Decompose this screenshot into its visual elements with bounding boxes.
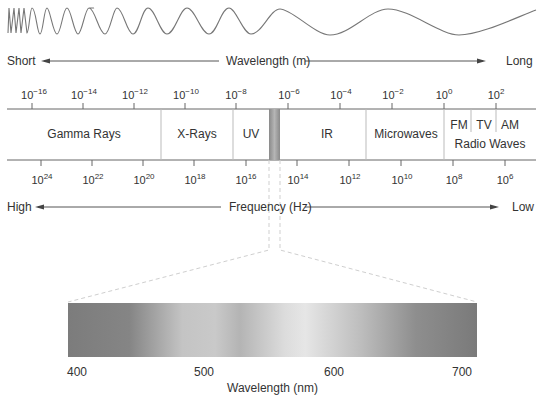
frequency-tick-label: 1022 <box>82 172 103 186</box>
wavelength-tick-label: 102 <box>488 87 505 101</box>
band-label-gamma-rays: Gamma Rays <box>47 127 120 141</box>
radio-waves-label: Radio Waves <box>455 137 526 151</box>
wavelength-axis-title: Wavelength (m) <box>226 54 310 68</box>
visible-tick-label: 500 <box>194 365 214 379</box>
frequency-tick-label: 1020 <box>133 172 154 186</box>
band-label-ir: IR <box>321 127 333 141</box>
frequency-tick-label: 1016 <box>235 172 256 186</box>
frequency-high-label: High <box>7 200 32 214</box>
frequency-tick-label: 1014 <box>287 172 308 186</box>
frequency-tick-label: 1018 <box>184 172 205 186</box>
wavelength-tick-label: 10−12 <box>122 87 148 101</box>
frequency-tick-label: 1010 <box>391 172 412 186</box>
band-label-am: AM <box>501 118 519 132</box>
visible-tick-label: 600 <box>324 365 344 379</box>
frequency-tick-label: 1024 <box>31 172 52 186</box>
wavelength-tick-label: 10−4 <box>330 87 351 101</box>
frequency-tick-label: 106 <box>497 172 514 186</box>
frequency-low-label: Low <box>512 200 534 214</box>
wavelength-tick-label: 10−8 <box>225 87 246 101</box>
band-label-uv: UV <box>243 127 260 141</box>
wavelength-tick-label: 100 <box>436 87 453 101</box>
band-label-tv: TV <box>476 118 491 132</box>
frequency-tick-label: 1012 <box>339 172 360 186</box>
visible-tick-label: 700 <box>452 365 472 379</box>
visible-band <box>269 109 280 160</box>
visible-spectrum-bar <box>68 303 477 357</box>
wavelength-tick-label: 10−2 <box>382 87 403 101</box>
visible-tick-label: 400 <box>67 365 87 379</box>
frequency-axis-title: Frequency (Hz) <box>229 200 312 214</box>
band-label-fm: FM <box>450 118 467 132</box>
wave-curve <box>8 8 536 35</box>
wavelength-tick-label: 10−14 <box>71 87 97 101</box>
band-label-x-rays: X-Rays <box>177 127 216 141</box>
wavelength-tick-label: 10−6 <box>278 87 299 101</box>
wavelength-tick-label: 10−10 <box>173 87 199 101</box>
visible-wavelength-axis-title: Wavelength (nm) <box>227 381 318 395</box>
band-label-microwaves: Microwaves <box>374 127 437 141</box>
wavelength-tick-label: 10−16 <box>21 87 47 101</box>
wavelength-long-label: Long <box>506 54 533 68</box>
frequency-tick-label: 108 <box>446 172 463 186</box>
wavelength-short-label: Short <box>7 54 36 68</box>
